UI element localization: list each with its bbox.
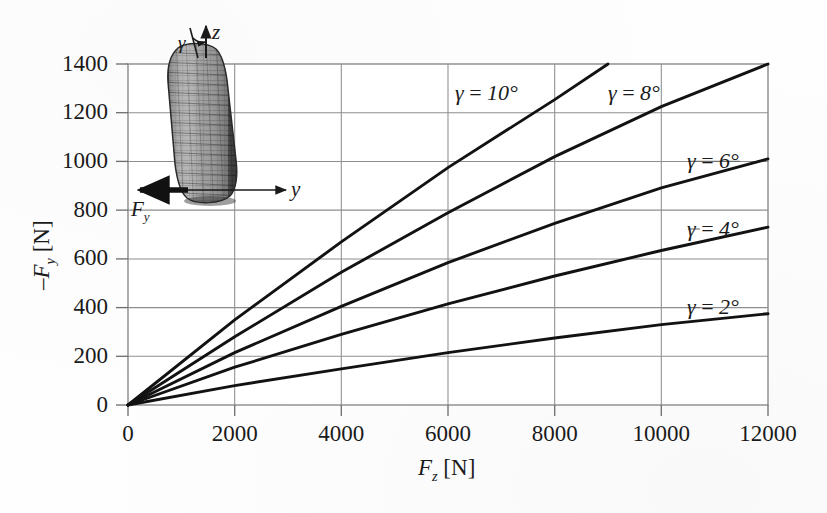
inset-y-axis-label: y xyxy=(291,179,300,200)
gamma-value: 6° xyxy=(719,148,739,173)
y-axis-title-text: –Fy [N] xyxy=(29,220,54,290)
equals-sign: = xyxy=(696,294,719,319)
inset-camber-angle-label: γ xyxy=(178,33,186,52)
gamma-symbol: γ xyxy=(608,80,617,105)
x-tick-label: 12000 xyxy=(708,422,827,445)
x-tick-label: 6000 xyxy=(388,422,508,445)
x-axis-ticks xyxy=(128,405,768,416)
figure-canvas: 1400 1200 1000 800 600 400 200 0 0 2000 … xyxy=(0,0,827,513)
y-axis-ticks xyxy=(116,64,128,405)
inset-fy-force-label: Fy xyxy=(131,199,150,223)
contact-shadow xyxy=(184,196,236,206)
x-tick-label: 4000 xyxy=(281,422,401,445)
y-tick-label: 1200 xyxy=(38,100,108,123)
y-tick-label: 0 xyxy=(38,393,108,416)
equals-sign: = xyxy=(464,80,487,105)
camber-angle-arc xyxy=(193,38,206,42)
x-axis-title-text: Fz [N] xyxy=(418,455,475,480)
gamma-value: 2° xyxy=(719,294,739,319)
x-axis-title: Fz [N] xyxy=(418,456,475,483)
curve-label-gamma-10: γ = 10° xyxy=(455,82,518,104)
equals-sign: = xyxy=(696,148,719,173)
y-tick-label: 800 xyxy=(38,198,108,221)
curve-label-gamma-6: γ = 6° xyxy=(687,150,739,172)
x-tick-label: 2000 xyxy=(175,422,295,445)
curve-label-gamma-4: γ = 4° xyxy=(687,218,739,240)
gamma-symbol: γ xyxy=(687,294,696,319)
gamma-symbol: γ xyxy=(687,148,696,173)
curve-label-gamma-8: γ = 8° xyxy=(608,82,660,104)
gamma-value: 8° xyxy=(640,80,660,105)
y-tick-label: 200 xyxy=(38,344,108,367)
y-tick-label: 1400 xyxy=(38,52,108,75)
equals-sign: = xyxy=(696,216,719,241)
x-tick-label: 10000 xyxy=(601,422,721,445)
gamma-value: 10° xyxy=(487,80,518,105)
y-axis-title: –Fy [N] xyxy=(30,220,57,290)
force-subscript: y xyxy=(144,209,150,224)
y-tick-label: 400 xyxy=(38,295,108,318)
x-tick-label: 0 xyxy=(68,422,188,445)
equals-sign: = xyxy=(617,80,640,105)
y-tick-label: 1000 xyxy=(38,149,108,172)
gamma-symbol: γ xyxy=(687,216,696,241)
force-symbol: F xyxy=(131,197,144,221)
curve-label-gamma-2: γ = 2° xyxy=(687,296,739,318)
inset-z-axis-label: z xyxy=(212,22,220,43)
gamma-value: 4° xyxy=(719,216,739,241)
gamma-symbol: γ xyxy=(455,80,464,105)
x-tick-label: 8000 xyxy=(495,422,615,445)
